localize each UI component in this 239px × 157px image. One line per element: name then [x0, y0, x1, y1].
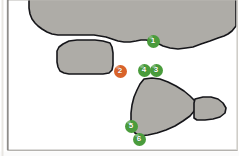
map-marker-1[interactable]: 1: [147, 35, 160, 48]
map-marker-label: 1: [151, 37, 155, 45]
map-marker-5[interactable]: 5: [125, 120, 138, 133]
map-marker-label: 6: [137, 135, 141, 143]
figure-container: 123456: [0, 0, 239, 156]
frame-bottom-shade: [0, 152, 239, 157]
map-marker-3[interactable]: 3: [150, 64, 163, 77]
map-marker-2[interactable]: 2: [114, 65, 127, 78]
map-canvas: [0, 0, 239, 156]
map-marker-6[interactable]: 6: [133, 133, 146, 146]
map-marker-4[interactable]: 4: [138, 64, 151, 77]
map-marker-label: 5: [129, 122, 133, 130]
rounded-plateau-region[interactable]: [57, 40, 113, 74]
map-marker-label: 3: [154, 66, 158, 74]
map-marker-label: 2: [118, 67, 122, 75]
map-marker-label: 4: [142, 66, 146, 74]
